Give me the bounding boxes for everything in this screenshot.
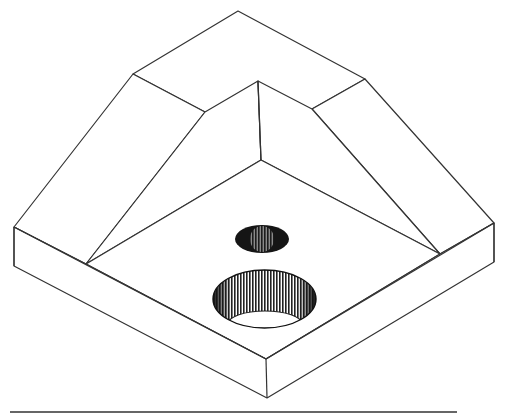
outline-lines	[14, 11, 494, 398]
isometric-drawing	[0, 0, 508, 416]
small-hole	[235, 225, 289, 253]
drawing-svg	[0, 0, 508, 416]
